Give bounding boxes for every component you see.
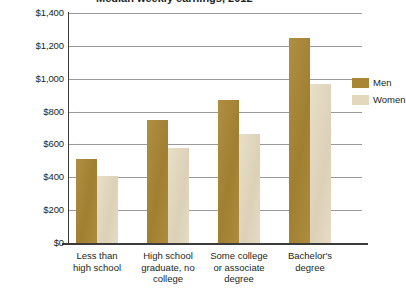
legend-swatch-women bbox=[352, 95, 369, 105]
category-label-line: degree bbox=[272, 262, 348, 274]
legend-label-men: Men bbox=[373, 78, 391, 88]
bar-women-2 bbox=[239, 134, 260, 243]
gridline bbox=[68, 13, 362, 14]
y-axis-tick-label: $1,200 bbox=[4, 41, 64, 51]
bar-women-3 bbox=[310, 84, 331, 243]
category-label-line: Less than bbox=[59, 250, 135, 262]
category-label-line: Some college bbox=[201, 250, 277, 262]
category-label-line: high school bbox=[59, 262, 135, 274]
y-axis-tick-labels: $0$200$400$600$800$1,000$1,200$1,400 bbox=[0, 0, 64, 291]
bar-women-0 bbox=[97, 176, 118, 243]
category-label-line: High school bbox=[130, 250, 206, 262]
y-axis-tick-label: $0 bbox=[4, 238, 64, 248]
category-label-line: college bbox=[130, 273, 206, 285]
legend-swatch-men bbox=[352, 78, 369, 88]
bar-men-0 bbox=[76, 159, 97, 243]
y-axis-line bbox=[68, 12, 69, 244]
bar-men-1 bbox=[147, 120, 168, 243]
y-axis-tick-label: $800 bbox=[4, 107, 64, 117]
bar-men-3 bbox=[289, 38, 310, 243]
gridline bbox=[68, 79, 362, 80]
y-axis-tick-label: $600 bbox=[4, 139, 64, 149]
category-label-1: High schoolgraduate, nocollege bbox=[130, 250, 206, 285]
bar-women-1 bbox=[168, 148, 189, 243]
y-axis-tick-label: $1,000 bbox=[4, 74, 64, 84]
category-label-line: Bachelor's bbox=[272, 250, 348, 262]
legend-item-women: Women bbox=[352, 95, 398, 105]
chart-title: Median weekly earnings, 2012 bbox=[96, 0, 253, 4]
y-axis-tick-label: $200 bbox=[4, 205, 64, 215]
gridline bbox=[68, 46, 362, 47]
legend-item-men: Men bbox=[352, 78, 398, 88]
legend-label-women: Women bbox=[373, 95, 406, 105]
category-label-line: or associate bbox=[201, 262, 277, 274]
y-axis-tick-label: $400 bbox=[4, 172, 64, 182]
category-label-line: degree bbox=[201, 273, 277, 285]
chart-legend: MenWomen bbox=[352, 78, 398, 112]
category-label-line: graduate, no bbox=[130, 262, 206, 274]
category-label-0: Less thanhigh school bbox=[59, 250, 135, 273]
bar-men-2 bbox=[218, 100, 239, 243]
category-label-2: Some collegeor associatedegree bbox=[201, 250, 277, 285]
x-axis-line bbox=[62, 243, 368, 245]
category-label-3: Bachelor'sdegree bbox=[272, 250, 348, 273]
y-axis-tick-label: $1,400 bbox=[4, 8, 64, 18]
